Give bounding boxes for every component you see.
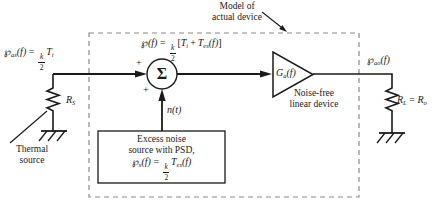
equals-sign: = xyxy=(409,94,415,105)
n-of-t-label: n(t) xyxy=(167,104,181,116)
formula-excess-psd: ℘x(f)=k2Tes(f) xyxy=(132,156,192,181)
excess-noise-line2: source with PSD, xyxy=(128,145,194,156)
thermal-source-label: Thermal source xyxy=(6,144,58,165)
formula-arg: (f) xyxy=(17,46,26,57)
script-p-symbol: ℘ xyxy=(132,156,139,167)
sigma-symbol: Σ xyxy=(147,59,177,89)
amplifier-gain-label: Ga(f) xyxy=(276,67,296,79)
source-ground-hatch-icon xyxy=(39,131,65,141)
formula-arg: (f) xyxy=(182,156,191,167)
noise-free-device-label: Noise-free linear device xyxy=(283,88,345,109)
fraction-k-over-2: k2 xyxy=(163,163,169,181)
formula-arg: (f) xyxy=(286,67,295,78)
equals-sign: = xyxy=(160,37,166,48)
noise-model-diagram: Model of actual device ℘as(f)=k2Ti ℘(f)=… xyxy=(0,0,444,205)
equals-sign: = xyxy=(29,46,35,57)
formula-arg: (f) xyxy=(381,54,390,65)
formula-subscript: S xyxy=(72,99,75,106)
source-resistor-zigzag xyxy=(47,74,59,131)
source-resistor-label: RS xyxy=(66,94,75,106)
script-p-symbol: ℘ xyxy=(141,37,148,48)
fraction-k-over-2: k2 xyxy=(38,53,44,71)
formula-available-source-psd: ℘as(f)=k2Ti xyxy=(4,46,54,71)
formula-subscript: L xyxy=(403,99,407,106)
load-ground-hatch-icon xyxy=(377,133,403,143)
summer-input-arrowhead-icon xyxy=(135,70,147,77)
equals-sign: = xyxy=(153,156,159,167)
formula-subscript: i xyxy=(52,51,54,58)
script-p-symbol: ℘ xyxy=(367,54,374,65)
amplifier-input-arrowhead-icon xyxy=(260,70,272,77)
model-note-line1: Model of xyxy=(191,1,283,12)
excess-noise-box-text: Excess noise source with PSD, ℘x(f)=k2Te… xyxy=(98,131,225,183)
formula-arg: (f) xyxy=(209,37,218,48)
excess-noise-line1: Excess noise xyxy=(137,134,186,145)
formula-subscript: o xyxy=(423,99,426,106)
formula-arg: (f) xyxy=(142,156,151,167)
formula-subscript: i xyxy=(186,42,188,49)
load-resistor-label: RL=Ro xyxy=(397,94,427,106)
thermal-line2: source xyxy=(6,155,58,166)
formula-arg: (f) xyxy=(148,37,157,48)
noise-free-line1: Noise-free xyxy=(283,88,345,99)
thermal-line1: Thermal xyxy=(6,144,58,155)
noise-free-line2: linear device xyxy=(283,99,345,110)
summer-plus-left: + xyxy=(136,57,142,68)
plus-operator: + xyxy=(190,37,196,48)
right-bracket: ] xyxy=(218,37,221,48)
noise-input-arrowhead-icon xyxy=(158,89,165,101)
model-note: Model of actual device xyxy=(191,1,283,22)
script-p-symbol: ℘ xyxy=(4,46,11,57)
model-note-line2: actual device xyxy=(191,12,283,23)
formula-output-psd: ℘ao(f) xyxy=(367,54,390,66)
